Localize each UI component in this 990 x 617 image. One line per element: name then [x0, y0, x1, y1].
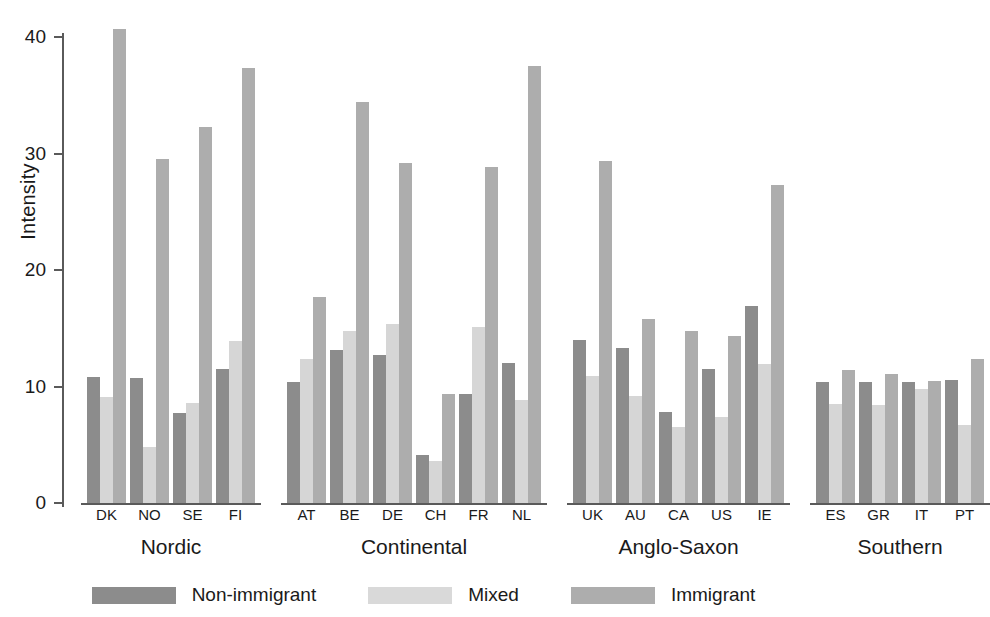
bar-FI-mixed — [229, 341, 242, 503]
x-axis-segment-continental — [281, 503, 547, 505]
legend-item-non-immigrant: Non-immigrant — [92, 584, 369, 606]
bar-NL-non-immigrant — [502, 363, 515, 503]
x-tick-label-DE: DE — [373, 506, 413, 523]
legend-label-mixed: Mixed — [468, 584, 519, 606]
group-label-continental: Continental — [324, 535, 504, 559]
bar-GR-mixed — [872, 405, 885, 503]
bar-DK-mixed — [100, 397, 113, 503]
bar-DE-immigrant — [399, 163, 412, 503]
x-tick-label-GR: GR — [859, 506, 899, 523]
bar-PT-immigrant — [971, 359, 984, 503]
bar-CH-immigrant — [442, 394, 455, 504]
bar-US-mixed — [715, 417, 728, 503]
legend-swatch-immigrant — [571, 587, 655, 604]
bar-IE-mixed — [758, 364, 771, 503]
bar-DK-non-immigrant — [87, 377, 100, 503]
x-tick-label-DK: DK — [87, 506, 127, 523]
bar-UK-mixed — [586, 376, 599, 503]
bar-AU-immigrant — [642, 319, 655, 503]
bar-AT-immigrant — [313, 297, 326, 503]
legend-swatch-mixed — [368, 587, 452, 604]
bar-SE-non-immigrant — [173, 413, 186, 503]
x-tick-label-AT: AT — [287, 506, 327, 523]
legend-swatch-non-immigrant — [92, 587, 176, 604]
x-axis-segment-nordic — [81, 503, 261, 505]
legend-label-non-immigrant: Non-immigrant — [192, 584, 317, 606]
x-tick-label-FR: FR — [459, 506, 499, 523]
bar-BE-non-immigrant — [330, 350, 343, 503]
bar-DE-non-immigrant — [373, 355, 386, 503]
x-tick-label-FI: FI — [216, 506, 256, 523]
bar-FR-non-immigrant — [459, 394, 472, 504]
bar-ES-mixed — [829, 404, 842, 503]
bar-NO-mixed — [143, 447, 156, 503]
bar-SE-mixed — [186, 403, 199, 503]
bar-IE-non-immigrant — [745, 306, 758, 503]
bar-US-immigrant — [728, 336, 741, 503]
bar-FR-mixed — [472, 327, 485, 503]
bar-BE-mixed — [343, 331, 356, 503]
x-tick-label-NO: NO — [130, 506, 170, 523]
bar-UK-non-immigrant — [573, 340, 586, 503]
bar-NL-immigrant — [528, 66, 541, 503]
x-tick-label-IT: IT — [902, 506, 942, 523]
x-tick-label-AU: AU — [616, 506, 656, 523]
bar-IT-immigrant — [928, 381, 941, 503]
bar-CA-immigrant — [685, 331, 698, 503]
bar-SE-immigrant — [199, 127, 212, 503]
x-tick-label-PT: PT — [945, 506, 985, 523]
bar-BE-immigrant — [356, 102, 369, 503]
bar-IE-immigrant — [771, 185, 784, 503]
legend-item-immigrant: Immigrant — [571, 584, 755, 606]
bar-CA-mixed — [672, 427, 685, 503]
bar-ES-non-immigrant — [816, 382, 829, 503]
bar-US-non-immigrant — [702, 369, 715, 503]
bar-DE-mixed — [386, 324, 399, 503]
bar-AT-mixed — [300, 359, 313, 503]
bar-UK-immigrant — [599, 161, 612, 504]
x-axis-segment-southern — [810, 503, 990, 505]
bar-AU-mixed — [629, 396, 642, 503]
bar-NO-non-immigrant — [130, 378, 143, 503]
bar-ES-immigrant — [842, 370, 855, 503]
x-tick-label-CA: CA — [659, 506, 699, 523]
bar-CA-non-immigrant — [659, 412, 672, 503]
legend: Non-immigrantMixedImmigrant — [0, 582, 847, 608]
x-tick-label-UK: UK — [573, 506, 613, 523]
x-tick-label-US: US — [702, 506, 742, 523]
bar-FI-immigrant — [242, 68, 255, 503]
bar-CH-mixed — [429, 461, 442, 503]
bar-DK-immigrant — [113, 29, 126, 503]
legend-item-mixed: Mixed — [368, 584, 571, 606]
x-axis-segment-anglo-saxon — [567, 503, 790, 505]
bar-FI-non-immigrant — [216, 369, 229, 503]
x-tick-label-SE: SE — [173, 506, 213, 523]
x-tick-label-IE: IE — [745, 506, 785, 523]
bar-IT-non-immigrant — [902, 382, 915, 503]
bar-PT-non-immigrant — [945, 380, 958, 503]
group-label-nordic: Nordic — [81, 535, 261, 559]
x-tick-label-NL: NL — [502, 506, 542, 523]
legend-label-immigrant: Immigrant — [671, 584, 755, 606]
group-label-southern: Southern — [810, 535, 990, 559]
bar-NL-mixed — [515, 400, 528, 503]
bar-GR-immigrant — [885, 374, 898, 503]
bar-GR-non-immigrant — [859, 382, 872, 503]
x-tick-label-BE: BE — [330, 506, 370, 523]
bar-NO-immigrant — [156, 159, 169, 503]
x-tick-label-CH: CH — [416, 506, 456, 523]
bar-AU-non-immigrant — [616, 348, 629, 503]
bar-CH-non-immigrant — [416, 455, 429, 503]
x-tick-label-ES: ES — [816, 506, 856, 523]
bar-AT-non-immigrant — [287, 382, 300, 503]
group-label-anglo-saxon: Anglo-Saxon — [589, 535, 769, 559]
bar-IT-mixed — [915, 389, 928, 503]
bar-PT-mixed — [958, 425, 971, 503]
plot-area — [0, 0, 847, 507]
bar-FR-immigrant — [485, 167, 498, 503]
